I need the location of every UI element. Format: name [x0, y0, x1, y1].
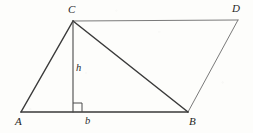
vertex-label-B: B [189, 116, 196, 127]
side-AC-line [21, 21, 73, 112]
base-label: b [85, 116, 90, 127]
diagonal-CB-line [73, 21, 188, 112]
vertex-label-D: D [232, 3, 240, 14]
vertex-label-A: A [15, 116, 22, 127]
figure-canvas [0, 0, 253, 133]
height-label: h [76, 63, 81, 74]
geometry-figure: A B C D h b [0, 0, 253, 133]
side-CD-line [73, 20, 238, 21]
right-angle-icon [73, 103, 82, 112]
vertex-label-C: C [68, 4, 76, 15]
side-BD-line [188, 20, 238, 112]
